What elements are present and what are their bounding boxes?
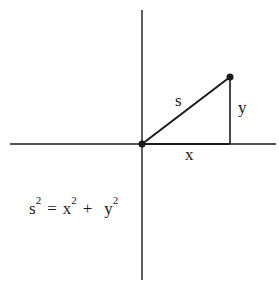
hypotenuse-label: s [175,92,182,109]
diagram-graphics [0,0,279,289]
eq-term2-exp: 2 [113,194,119,206]
pythagorean-diagram: s y x s2=x2+y2 [0,0,279,289]
apex-point [227,74,234,81]
horizontal-leg-label: x [185,146,194,163]
eq-equals: = [47,199,57,218]
hypotenuse-line [142,77,230,144]
eq-term1-exp: 2 [71,194,77,206]
origin-point [139,141,146,148]
eq-term1-base: x [63,199,72,218]
eq-term2-base: y [104,199,113,218]
eq-plus: + [83,199,93,218]
vertical-leg-label: y [238,99,247,116]
pythagorean-equation: s2=x2+y2 [29,197,118,219]
eq-lhs-base: s [29,199,36,218]
eq-lhs-exp: 2 [36,194,42,206]
